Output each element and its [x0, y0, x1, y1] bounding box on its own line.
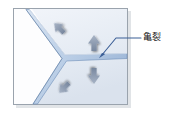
crack-diagram-figure: 亀裂 — [0, 0, 178, 116]
crack-callout-label: 亀裂 — [143, 32, 161, 43]
diagram-canvas — [0, 0, 178, 116]
